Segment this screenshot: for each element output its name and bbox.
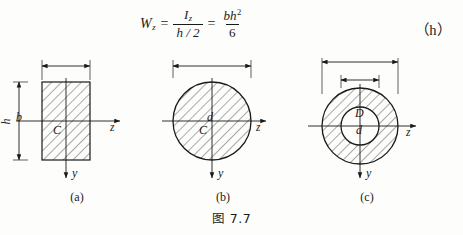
figure-c-dim-outer-label: D bbox=[355, 106, 364, 121]
figure-c-axis-y-label: y bbox=[366, 166, 371, 181]
figure-b-sublabel: (b) bbox=[148, 190, 298, 205]
figure-a-sublabel: (a) bbox=[2, 190, 152, 205]
figure-caption: 图 7.7 bbox=[0, 208, 463, 227]
figure-a-dim-left-label: h bbox=[0, 119, 14, 125]
figure-page: Wz = Iz h / 2 = bh2 6 （h） bbox=[0, 0, 463, 235]
figure-b-dim-top-label: d bbox=[207, 110, 213, 125]
equation-label: （h） bbox=[415, 18, 451, 39]
figure-b-centroid-label: C bbox=[199, 123, 207, 138]
formula-lhs-symbol: W bbox=[140, 16, 152, 31]
formula-fraction-2-numerator-exponent: 2 bbox=[237, 7, 241, 17]
figure-a-dim-top-label: b bbox=[16, 110, 22, 125]
figure-b-circle: d C z y (b) bbox=[148, 52, 298, 207]
figure-c-dim-inner-label: d bbox=[356, 123, 362, 138]
figure-c-sublabel: (c) bbox=[292, 190, 442, 205]
formula-fraction-2-numerator-base: bh bbox=[223, 8, 236, 23]
formula-fraction-1-denominator: h / 2 bbox=[173, 24, 202, 40]
figure-b-axis-y-label: y bbox=[218, 166, 223, 181]
formula-fraction-2-denominator: 6 bbox=[226, 24, 239, 40]
formula-fraction-1-numerator-symbol: I bbox=[184, 7, 188, 22]
formula-expression: Wz = Iz h / 2 = bh2 6 bbox=[140, 8, 244, 40]
figure-c-axis-z-label: z bbox=[406, 126, 410, 138]
figure-a-rectangle: b h C z y (a) bbox=[2, 52, 152, 207]
formula-fraction-2: bh2 6 bbox=[220, 8, 244, 39]
figure-a-axis-z-label: z bbox=[110, 121, 114, 133]
formula-row: Wz = Iz h / 2 = bh2 6 （h） bbox=[0, 4, 463, 50]
figure-b-axis-z-label: z bbox=[256, 121, 260, 133]
formula-lhs-subscript: z bbox=[152, 22, 155, 32]
figure-c-annulus: D d z y (c) bbox=[292, 52, 442, 207]
formula-equals-1: = bbox=[160, 16, 168, 32]
figure-a-centroid-label: C bbox=[53, 123, 61, 138]
figure-a-axis-y-label: y bbox=[72, 166, 77, 181]
formula-lhs: Wz bbox=[140, 16, 155, 32]
formula-fraction-1-numerator-subscript: z bbox=[189, 13, 192, 23]
formula-fraction-1: Iz h / 2 bbox=[173, 8, 202, 40]
figures-container: b h C z y (a) bbox=[0, 52, 463, 207]
formula-fraction-2-numerator: bh2 bbox=[220, 8, 244, 23]
formula-equals-2: = bbox=[208, 16, 216, 32]
formula-fraction-1-numerator: Iz bbox=[181, 8, 195, 24]
